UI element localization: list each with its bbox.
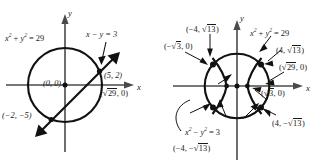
vertex-label-sqrt3-0: (√3, 0)	[261, 90, 285, 98]
vertex-label-neg-sqrt3-0: (−√3, 0)	[164, 43, 192, 51]
x-axis-arrowhead	[293, 82, 303, 89]
pointer-arrow-2	[259, 44, 268, 52]
vertex-point-right	[245, 84, 250, 89]
pointer-arrow-4	[264, 61, 274, 67]
point-label-neg2-neg5: (−2, −5)	[2, 112, 31, 120]
y-axis-label: y	[68, 9, 72, 18]
pointer-arrow-3	[200, 57, 209, 65]
point-label-5-2: (5, 2)	[104, 72, 122, 80]
origin-label: (0, 0)	[43, 80, 61, 88]
x-axis-arrowhead	[124, 81, 134, 88]
point-label-neg4-neg-sqrt13: (−4, −√13)	[173, 145, 210, 153]
intersection-point-lower-left	[210, 105, 216, 111]
point-label-sqrt29-0: (√29, 0)	[100, 90, 128, 98]
circle-equation-label: x2 + y2 = 29	[5, 33, 44, 43]
label-pointers	[185, 34, 284, 117]
intersection-point-upper-right	[258, 61, 264, 67]
x-axis-label: x	[306, 84, 310, 93]
vertex-point-left	[224, 84, 229, 89]
point-label-sqrt29-0: (√29, 0)	[279, 64, 307, 72]
point-label-4-sqrt13: (4, √13)	[276, 47, 304, 55]
intersection-point-lower-right	[258, 105, 264, 111]
circle-equation-label: x2 + y2 = 29	[250, 28, 289, 38]
y-axis-label: y	[240, 14, 244, 23]
panel-circle-hyperbola: (−4, √13) x2 + y2 = 29 (−√3, 0) (4, √13)…	[163, 0, 326, 165]
origin-point	[235, 84, 240, 89]
panel-circle-line: x2 + y2 = 29 x − y = 3 (0, 0) (5, 2) (−2…	[0, 0, 163, 165]
origin-point	[63, 83, 68, 88]
pointer-arrow-1	[207, 49, 213, 58]
intersection-point-upper	[97, 69, 102, 74]
x-axis-label: x	[137, 83, 141, 92]
point-label-neg4-sqrt13: (−4, √13)	[186, 26, 219, 34]
point-label-4-neg-sqrt13: (4, −√13)	[272, 120, 305, 128]
figure-container: x2 + y2 = 29 x − y = 3 (0, 0) (5, 2) (−2…	[0, 0, 326, 165]
line-label-pointer-arrow	[98, 56, 106, 65]
pointer-arrow-8	[203, 103, 212, 111]
pointer-arrow-11	[262, 108, 271, 117]
hyperbola-equation-label: x2 − y2 = 3	[185, 127, 220, 137]
intersection-point-lower	[49, 117, 54, 122]
line-equation-label: x − y = 3	[86, 31, 117, 39]
intersection-point-upper-left	[210, 61, 216, 67]
